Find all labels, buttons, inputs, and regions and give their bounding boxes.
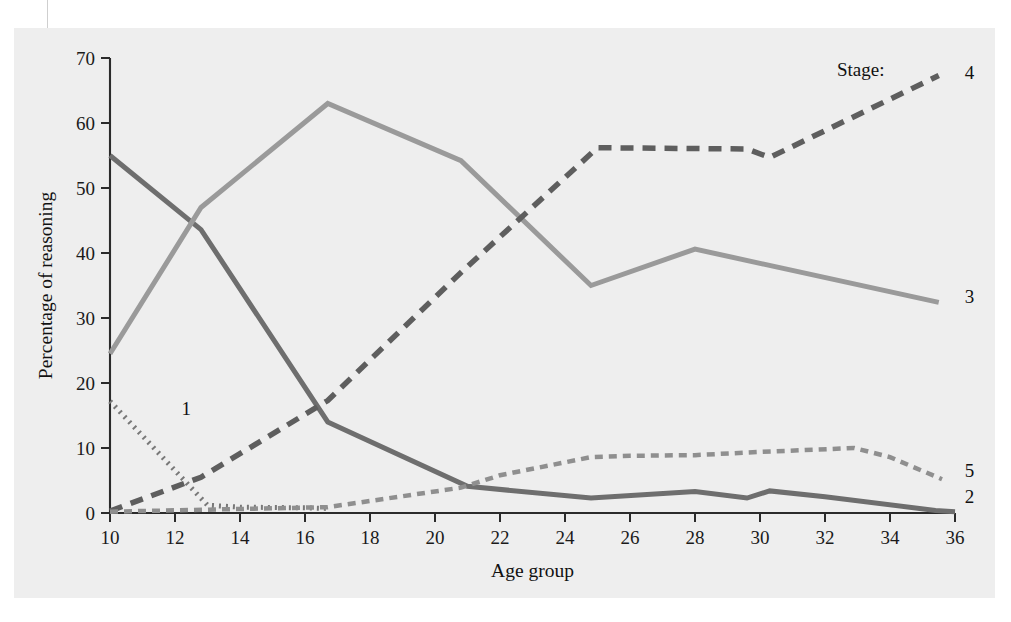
series-label-2: 2 bbox=[965, 486, 975, 507]
x-axis-title: Age group bbox=[491, 560, 574, 581]
scan-artifact bbox=[47, 0, 48, 28]
x-tick-label: 22 bbox=[491, 527, 510, 548]
x-tick-label: 26 bbox=[621, 527, 640, 548]
series-label-1: 1 bbox=[182, 398, 192, 419]
x-tick-label: 32 bbox=[816, 527, 835, 548]
x-tick-label: 16 bbox=[296, 527, 315, 548]
series-label-4: 4 bbox=[965, 62, 975, 83]
legend-group: Stage: bbox=[837, 59, 885, 80]
series-label-5: 5 bbox=[965, 460, 975, 481]
series-label-3: 3 bbox=[965, 286, 975, 307]
y-axis-title: Percentage of reasoning bbox=[35, 192, 56, 380]
x-tick-label: 28 bbox=[686, 527, 705, 548]
y-tick-label: 50 bbox=[76, 178, 95, 199]
x-tick-label: 30 bbox=[751, 527, 770, 548]
y-tick-label: 20 bbox=[76, 373, 95, 394]
y-tick-label: 0 bbox=[86, 503, 96, 524]
line-chart-svg: 0102030405060701012141618202224262830323… bbox=[14, 28, 995, 598]
y-tick-label: 40 bbox=[76, 243, 95, 264]
y-tick-label: 60 bbox=[76, 113, 95, 134]
x-tick-label: 24 bbox=[556, 527, 576, 548]
x-tick-label: 36 bbox=[946, 527, 965, 548]
x-tick-label: 34 bbox=[881, 527, 901, 548]
x-tick-label: 12 bbox=[166, 527, 185, 548]
y-tick-label: 70 bbox=[76, 48, 95, 69]
y-tick-label: 10 bbox=[76, 438, 95, 459]
series-line-3 bbox=[110, 104, 939, 354]
y-tick-label: 30 bbox=[76, 308, 95, 329]
series-group bbox=[110, 76, 955, 512]
x-tick-label: 14 bbox=[231, 527, 251, 548]
legend-title: Stage: bbox=[837, 59, 885, 80]
x-tick-label: 20 bbox=[426, 527, 445, 548]
chart-figure: 0102030405060701012141618202224262830323… bbox=[14, 28, 995, 598]
x-tick-label: 18 bbox=[361, 527, 380, 548]
series-line-4 bbox=[110, 76, 939, 512]
x-tick-label: 10 bbox=[101, 527, 120, 548]
